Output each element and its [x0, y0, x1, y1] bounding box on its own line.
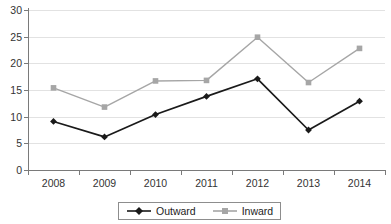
data-point-outward-2009[interactable]	[101, 134, 108, 141]
data-series-layer	[0, 0, 391, 224]
data-point-outward-2010[interactable]	[152, 111, 159, 118]
data-point-inward-2011[interactable]	[204, 78, 210, 84]
data-point-inward-2012[interactable]	[255, 34, 261, 40]
data-point-inward-2009[interactable]	[102, 104, 108, 110]
data-point-outward-2011[interactable]	[203, 93, 210, 100]
legend-item-outward[interactable]: Outward	[126, 205, 196, 217]
legend-marker-diamond-icon	[126, 205, 152, 217]
data-point-inward-2013[interactable]	[306, 80, 312, 86]
series-line-outward	[54, 79, 360, 137]
legend-label-inward: Inward	[242, 206, 274, 217]
data-point-inward-2008[interactable]	[51, 85, 57, 91]
chart-legend: Outward Inward	[118, 202, 281, 220]
data-point-outward-2008[interactable]	[50, 118, 57, 125]
data-point-outward-2014[interactable]	[356, 98, 363, 105]
data-point-inward-2014[interactable]	[357, 46, 363, 52]
legend-label-outward: Outward	[156, 206, 196, 217]
line-chart: 051015202530 200820092010201120122013201…	[0, 0, 391, 224]
data-point-inward-2010[interactable]	[153, 78, 159, 84]
legend-marker-square-icon	[212, 205, 238, 217]
legend-item-inward[interactable]: Inward	[212, 205, 274, 217]
